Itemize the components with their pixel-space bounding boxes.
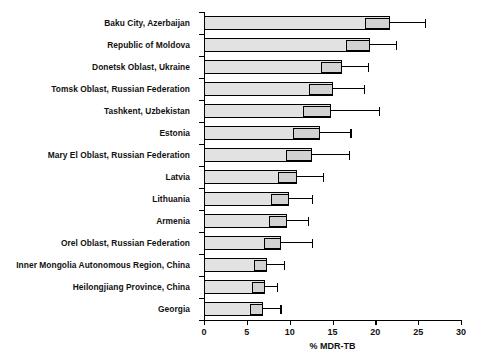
error-bar-cap — [349, 151, 350, 160]
confidence-interval-box — [278, 172, 298, 183]
category-label: Tashkent, Uzbekistan — [104, 107, 190, 116]
category-label: Armenia — [156, 217, 190, 226]
confidence-interval-box — [254, 260, 268, 271]
y-tick — [199, 276, 204, 277]
x-tick — [247, 320, 248, 325]
confidence-interval-box — [321, 62, 342, 73]
x-tick-label: 20 — [362, 327, 388, 337]
category-label: Estonia — [159, 129, 190, 138]
category-axis-labels: Baku City, AzerbaijanRepublic of Moldova… — [0, 12, 198, 320]
error-bar-cap — [368, 63, 369, 72]
confidence-interval-box — [293, 128, 320, 139]
y-axis-line — [204, 12, 205, 320]
y-tick — [199, 78, 204, 79]
error-bar-cap — [308, 217, 309, 226]
category-label: Orel Oblast, Russian Federation — [61, 239, 190, 248]
error-bar-cap — [312, 239, 313, 248]
error-bar-cap — [277, 283, 278, 292]
y-tick — [199, 210, 204, 211]
x-tick — [333, 320, 334, 325]
x-tick-label: 30 — [448, 327, 474, 337]
category-label: Latvia — [165, 173, 190, 182]
error-bar-cap — [379, 107, 380, 116]
bar-row — [204, 302, 461, 316]
confidence-interval-box — [303, 106, 330, 117]
category-label: Baku City, Azerbaijan — [104, 19, 190, 28]
category-label: Georgia — [158, 305, 190, 314]
y-tick — [199, 188, 204, 189]
y-tick — [199, 122, 204, 123]
x-tick — [461, 320, 462, 325]
bar-row — [204, 126, 461, 140]
bar-row — [204, 16, 461, 30]
y-tick — [199, 166, 204, 167]
confidence-interval-box — [286, 150, 312, 161]
y-tick — [199, 34, 204, 35]
x-tick — [204, 320, 205, 325]
category-label: Mary El Oblast, Russian Federation — [48, 151, 190, 160]
error-bar-cap — [350, 129, 351, 138]
error-bar-cap — [280, 305, 281, 314]
bar-row — [204, 60, 461, 74]
category-label: Republic of Moldova — [107, 41, 190, 50]
bar-row — [204, 214, 461, 228]
bar-row — [204, 258, 461, 272]
x-tick-label: 5 — [234, 327, 260, 337]
confidence-interval-box — [346, 40, 370, 51]
x-tick-label: 0 — [191, 327, 217, 337]
error-bar-cap — [312, 195, 313, 204]
bar-row — [204, 280, 461, 294]
error-bar-cap — [425, 19, 426, 28]
error-bar-cap — [323, 173, 324, 182]
bar-row — [204, 236, 461, 250]
x-tick — [418, 320, 419, 325]
bar-row — [204, 104, 461, 118]
y-tick — [199, 100, 204, 101]
confidence-interval-box — [250, 304, 263, 315]
error-bar-cap — [364, 85, 365, 94]
x-tick — [375, 320, 376, 325]
confidence-interval-box — [271, 194, 289, 205]
confidence-interval-box — [365, 18, 390, 29]
confidence-interval-box — [252, 282, 265, 293]
x-tick-label: 10 — [277, 327, 303, 337]
category-label: Inner Mongolia Autonomous Region, China — [16, 261, 190, 270]
bar-row — [204, 170, 461, 184]
bar — [204, 16, 390, 30]
y-tick — [199, 144, 204, 145]
y-tick — [199, 254, 204, 255]
x-tick-label: 15 — [320, 327, 346, 337]
category-label: Donetsk Oblast, Ukraine — [92, 63, 190, 72]
mdr-tb-bar-chart: Baku City, AzerbaijanRepublic of Moldova… — [0, 0, 477, 363]
category-label: Heilongjiang Province, China — [73, 283, 190, 292]
bar-row — [204, 192, 461, 206]
confidence-interval-box — [309, 84, 334, 95]
bar-row — [204, 82, 461, 96]
y-tick — [199, 232, 204, 233]
y-tick — [199, 298, 204, 299]
bar-row — [204, 38, 461, 52]
confidence-interval-box — [264, 238, 281, 249]
confidence-interval-box — [269, 216, 287, 227]
x-tick-label: 25 — [405, 327, 431, 337]
y-tick — [199, 56, 204, 57]
category-label: Lithuania — [152, 195, 190, 204]
bar-row — [204, 148, 461, 162]
x-axis-title: % MDR-TB — [204, 341, 461, 351]
error-bar-cap — [284, 261, 285, 270]
error-bar-cap — [396, 41, 397, 50]
category-label: Tomsk Oblast, Russian Federation — [51, 85, 190, 94]
x-tick — [290, 320, 291, 325]
y-tick — [199, 12, 204, 13]
